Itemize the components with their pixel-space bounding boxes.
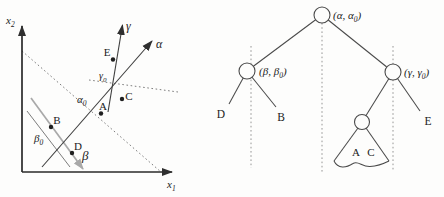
tree-root-label: (α, α0) [333, 9, 361, 24]
scatter-plot-panel: x2 x1 α γ β α0 γ0 β0 A B C D E [5, 14, 178, 193]
two-panel-figure: x2 x1 α γ β α0 γ0 β0 A B C D E [0, 0, 444, 197]
point-label-e: E [104, 46, 111, 58]
leaf-label-e: E [424, 115, 431, 127]
tree-node-gamma [385, 64, 401, 80]
alpha-direction-arrow [42, 41, 152, 167]
point-label-c: C [125, 90, 132, 102]
point-dot-c [120, 97, 124, 101]
decision-tree-panel: (α, α0) (β, β0) (γ, γ0) D B E A C [217, 7, 432, 173]
tree-edge-root-left [247, 15, 322, 71]
beta-label: β [81, 148, 89, 163]
leaf-label-d: D [217, 108, 225, 120]
tree-node-root [314, 7, 330, 23]
x2-axis-label: x2 [5, 14, 15, 29]
x1-axis-label: x1 [166, 178, 176, 193]
gamma-label: γ [126, 19, 131, 33]
point-label-b: B [53, 114, 60, 126]
gamma0-label: γ0 [99, 70, 107, 84]
alpha-label: α [156, 37, 163, 51]
tree-gamma-node-label: (γ, γ0) [404, 66, 430, 81]
point-dot-e [111, 57, 115, 61]
point-label-a: A [99, 100, 107, 112]
tree-beta-node-label: (β, β0) [259, 65, 287, 80]
subtree-label-a: A [352, 146, 360, 158]
alpha-threshold-dotted-line [22, 51, 161, 172]
subtree-label-c: C [367, 146, 374, 158]
leaf-label-b: B [277, 111, 285, 123]
subtree-wavy-base [334, 161, 389, 167]
tree-node-beta [239, 63, 255, 79]
tree-edge-gamma-sub [362, 72, 393, 122]
beta0-label: β0 [33, 132, 43, 147]
point-label-d: D [74, 140, 82, 152]
alpha0-label: α0 [77, 93, 87, 108]
tree-node-subtree-root [355, 115, 370, 130]
tree-edge-root-right [322, 15, 393, 72]
figure-canvas: x2 x1 α γ β α0 γ0 β0 A B C D E [0, 0, 444, 197]
